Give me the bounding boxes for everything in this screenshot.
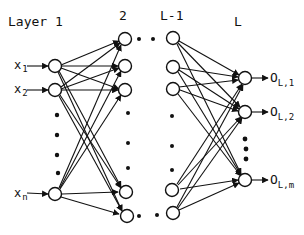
ellipsis-dot [56,171,60,175]
node-output-2 [239,106,252,119]
ellipsis-dot [55,153,59,157]
input-label-n: xn [14,186,28,202]
layer-label-2: 2 [119,8,127,23]
layer-label-1: Layer 1 [8,14,63,29]
ellipsis-dot [151,37,155,41]
layer-1-nodes [49,60,62,201]
ellipsis-dot [137,37,141,41]
output-label-1: OL,1 [270,70,294,88]
node-input-1 [49,60,62,73]
ellipsis-dot [170,144,174,148]
ellipsis-dot [137,214,141,218]
input-label-1: x1 [14,58,28,74]
node-layer2 [119,33,132,46]
edges-layer-l-minus-1-to-l [177,41,243,210]
ellipsis-dot [244,157,249,162]
output-label-2: OL,2 [270,104,294,122]
ellipsis-dot [55,113,59,117]
ellipsis-dot [170,114,174,118]
input-label-2: x2 [14,82,28,98]
layer-ellipsis [137,37,159,218]
node-layer2 [121,210,134,223]
node-layer2 [119,60,132,73]
ellipsis-dot [155,213,159,217]
neural-network-diagram: Layer 1 2 L-1 L [0,0,304,235]
node-layer-l-minus-1 [167,83,180,96]
ellipsis-dot [170,168,174,172]
node-layer-l-minus-1 [166,184,179,197]
node-output-1 [239,72,252,85]
layer-l-minus-1-nodes [166,32,180,220]
input-arrows [27,66,48,194]
node-layer-l-minus-1 [167,32,180,45]
node-input-n [49,188,62,201]
node-layer2 [120,186,133,199]
ellipsis-dot [126,166,130,170]
ellipsis-dot [126,111,130,115]
edges-layer1-to-layer2 [58,41,122,214]
node-input-2 [49,84,62,97]
ellipsis-dot [243,137,248,142]
node-layer2 [119,84,132,97]
node-layer-l-minus-1 [167,207,180,220]
node-output-m [239,174,252,187]
node-layer-l-minus-1 [167,61,180,74]
layer-label-l: L [234,14,242,29]
output-arrows [252,78,268,180]
output-label-m: OL,m [270,172,294,190]
layer-2-nodes [119,33,134,223]
ellipsis-dot [244,147,249,152]
ellipsis-dot [55,133,59,137]
ellipsis-dot [126,141,130,145]
layer-label-l-minus-1: L-1 [160,8,183,23]
